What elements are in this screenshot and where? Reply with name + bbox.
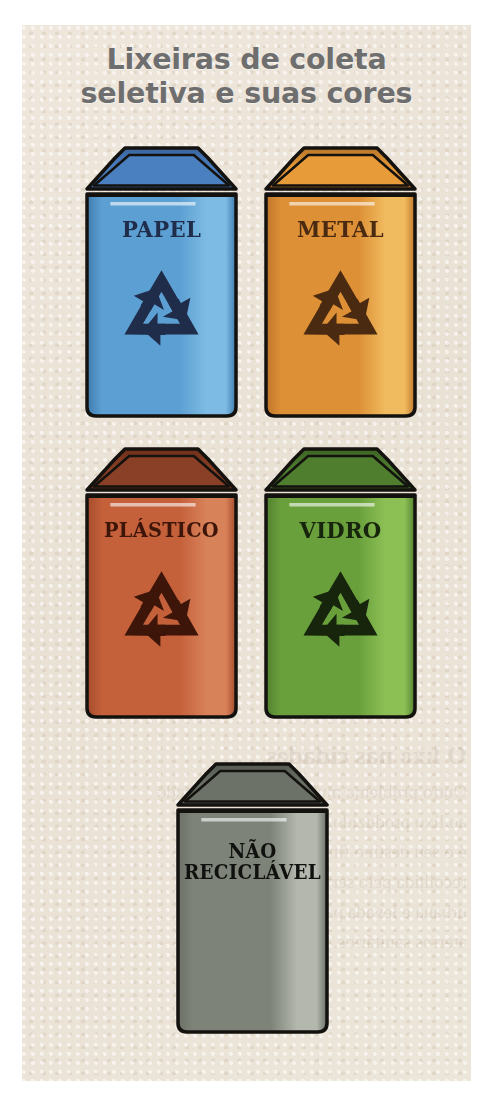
bin-body bbox=[178, 810, 327, 1032]
bin-shape-vidro bbox=[263, 447, 418, 719]
bin-nao-reciclavel[interactable]: NÃO RECICLÁVEL bbox=[175, 762, 330, 1034]
page-title: Lixeiras de coleta seletiva e suas cores bbox=[0, 43, 493, 111]
bin-highlight bbox=[201, 818, 286, 822]
bin-metal[interactable]: METAL bbox=[263, 146, 418, 418]
bin-highlight bbox=[110, 202, 195, 206]
bin-shape-metal bbox=[263, 146, 418, 418]
bin-shape-papel bbox=[84, 146, 239, 418]
bin-highlight bbox=[110, 503, 195, 507]
bin-plastico[interactable]: PLÁSTICO bbox=[84, 447, 239, 719]
bin-shape-plastico bbox=[84, 447, 239, 719]
bin-highlight bbox=[289, 503, 374, 507]
bin-highlight bbox=[289, 202, 374, 206]
bin-shape-nao-reciclavel bbox=[175, 762, 330, 1034]
bin-papel[interactable]: PAPEL bbox=[84, 146, 239, 418]
bin-vidro[interactable]: VIDRO bbox=[263, 447, 418, 719]
illustration-page: O lixo nas cidades Outro problema muito … bbox=[0, 0, 493, 1105]
